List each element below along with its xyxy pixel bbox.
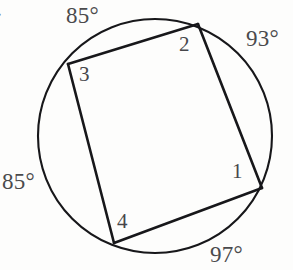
problem-item-tag: . (0, 2, 1, 19)
arc-label-bottom: 97° (210, 243, 243, 266)
geometry-figure: . 85° 93° 97° 85° 1 2 3 4 (0, 0, 293, 270)
arc-label-left: 85° (2, 170, 35, 193)
arc-label-top: 85° (66, 4, 99, 27)
vertex-label-3: 3 (79, 64, 90, 85)
vertex-label-4: 4 (117, 211, 128, 232)
vertex-label-1: 1 (232, 161, 243, 182)
circle-outline (38, 19, 272, 253)
vertex-label-2: 2 (179, 34, 190, 55)
chord-4-to-3 (68, 64, 114, 243)
arc-label-right: 93° (246, 27, 279, 50)
